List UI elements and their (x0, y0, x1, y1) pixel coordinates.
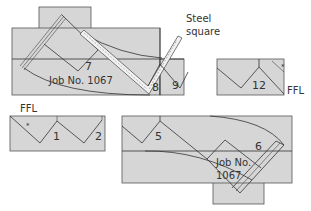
step-12-board-group: * 12 FFL (217, 59, 305, 96)
step-label-7: 7 (85, 60, 92, 73)
job-number-label-top: Job No. 1067 (48, 75, 113, 86)
stair-stringer-layout-diagram: 7 8 9 Job No. 1067 Steel square * 12 FFL… (0, 0, 311, 211)
step-label-5: 5 (155, 130, 162, 143)
step-label-1: 1 (53, 130, 60, 143)
top-stringer-board-group: 7 8 9 Job No. 1067 Steel square (12, 7, 220, 95)
bottom-right-stringer-group: 5 6 Job No. 1067 (122, 116, 292, 204)
step-label-2: 2 (95, 130, 102, 143)
step-label-6: 6 (255, 140, 262, 153)
job-number-label-bottom-line2: 1067 (216, 170, 241, 181)
step-label-8: 8 (152, 81, 159, 94)
star-mark-bottom: * (26, 122, 30, 130)
steel-square-label-line2: square (186, 26, 220, 37)
bottom-stringer-board (122, 116, 292, 183)
step-label-9: 9 (172, 79, 179, 92)
bottom-tab-block (213, 182, 264, 204)
ffl-label-top-right: FFL (287, 85, 305, 96)
bottom-left-stringer-group: FFL * 1 2 (10, 103, 105, 151)
star-mark-top: * (281, 63, 285, 71)
step-label-12: 12 (252, 79, 266, 92)
ffl-label-bottom-left: FFL (20, 103, 38, 114)
job-number-label-bottom-line1: Job No. (215, 157, 251, 168)
steel-square-label-line1: Steel (186, 13, 211, 24)
